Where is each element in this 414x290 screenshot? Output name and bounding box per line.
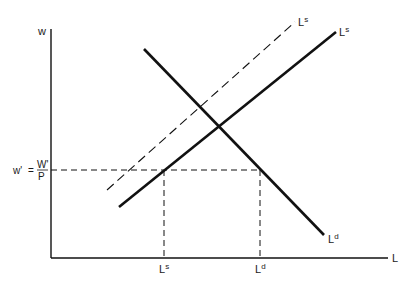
- shifted-supply-label: Ls: [298, 15, 308, 28]
- svg-text:w': w': [12, 165, 22, 176]
- wage-level-label: w' = W' P: [12, 159, 48, 182]
- demand-label: Ld: [328, 232, 339, 245]
- svg-text:W': W': [37, 159, 48, 170]
- labor-market-diagram: w L Ls Ls Ld w' = W' P Ls Ld: [0, 0, 414, 290]
- shifted-supply-curve: [107, 22, 295, 190]
- y-axis-label: w: [37, 25, 46, 37]
- x-axis-label: L: [392, 252, 398, 264]
- x-tick-supply-quantity: Ls: [159, 262, 169, 275]
- supply-label: Ls: [339, 25, 349, 38]
- svg-text:=: =: [28, 165, 34, 176]
- x-tick-demand-quantity: Ld: [255, 262, 266, 275]
- svg-text:P: P: [38, 171, 45, 182]
